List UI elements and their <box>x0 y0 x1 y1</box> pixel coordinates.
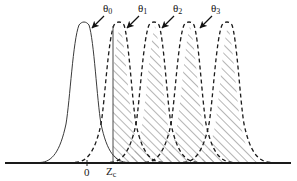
arrow-theta1 <box>127 16 139 28</box>
theta1-sub: 1 <box>143 7 147 16</box>
annotation-label-theta0: θ0 <box>103 3 112 16</box>
arrow-theta0 <box>92 16 104 28</box>
annotation-label-theta3: θ3 <box>211 3 220 16</box>
theta3-sub: 3 <box>216 7 220 16</box>
zc-sub: c <box>113 170 117 179</box>
zc-base: Z <box>106 165 113 177</box>
theta0-sub: 0 <box>108 7 112 16</box>
annotation-label-theta2: θ2 <box>173 3 182 16</box>
theta2-sub: 2 <box>178 7 182 16</box>
arrow-theta2 <box>162 16 174 28</box>
density-curves-chart <box>0 0 297 181</box>
annotation-label-theta1: θ1 <box>138 3 147 16</box>
arrow-theta3 <box>200 16 212 28</box>
axis-tick-label-zc: Zc <box>106 166 116 179</box>
axis-tick-label-origin: 0 <box>84 167 90 178</box>
figure-container: θ0 θ1 θ2 θ3 0 Zc <box>0 0 297 181</box>
